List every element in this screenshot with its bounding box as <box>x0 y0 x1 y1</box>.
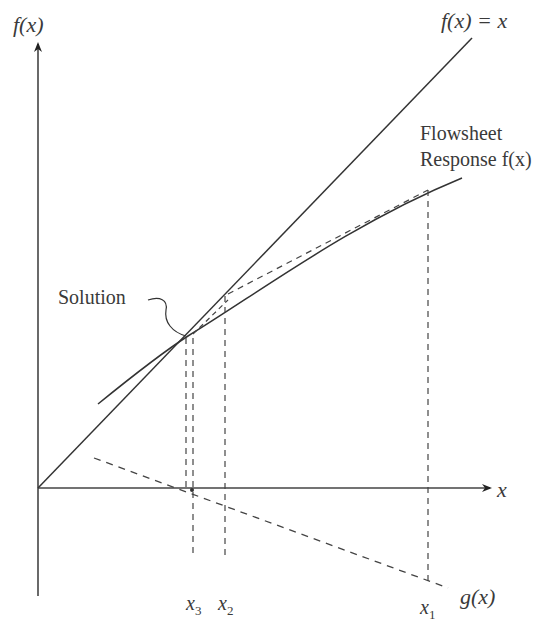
solution-leader <box>148 298 186 336</box>
solution-axis-dot <box>190 488 194 492</box>
x1-label: x1 <box>419 596 435 622</box>
diagram-canvas: f(x) f(x) = x Flowsheet Response f(x) So… <box>0 0 559 622</box>
solution-label: Solution <box>58 286 126 308</box>
x-axis-label: x <box>496 477 507 502</box>
g-line <box>94 458 448 588</box>
curve-label-line1: Flowsheet <box>420 122 503 144</box>
x2-label: x2 <box>217 592 233 618</box>
curve-label-line2: Response f(x) <box>420 148 532 171</box>
y-axis-label: f(x) <box>13 12 44 37</box>
g-label: g(x) <box>460 584 495 609</box>
x3-label: x3 <box>185 592 201 618</box>
identity-line-label: f(x) = x <box>441 8 507 33</box>
identity-line <box>38 38 472 488</box>
secant-line-x1-x2 <box>228 190 428 294</box>
